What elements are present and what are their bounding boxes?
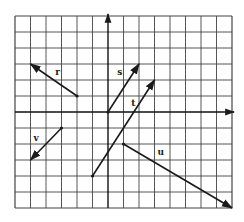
vector-t: t bbox=[91, 80, 155, 178]
vector-t-tail-dot bbox=[91, 174, 94, 177]
vectors: rstuv bbox=[31, 64, 233, 208]
vector-s-label: s bbox=[117, 67, 122, 77]
vector-u: u bbox=[122, 142, 232, 208]
vector-r-tail-dot bbox=[75, 94, 78, 97]
vector-v-tail-dot bbox=[60, 126, 63, 129]
coordinate-grid: rstuv bbox=[0, 0, 244, 222]
vector-diagram: rstuv bbox=[0, 0, 244, 222]
vector-r-label: r bbox=[55, 67, 60, 77]
vector-t-label: t bbox=[131, 98, 136, 108]
vector-s-tail-dot bbox=[106, 110, 109, 113]
vector-u-tail-dot bbox=[122, 142, 125, 145]
vector-u-label: u bbox=[158, 147, 165, 157]
vector-v: v bbox=[31, 126, 64, 160]
vector-v-label: v bbox=[33, 133, 40, 143]
vector-r: r bbox=[31, 64, 79, 98]
